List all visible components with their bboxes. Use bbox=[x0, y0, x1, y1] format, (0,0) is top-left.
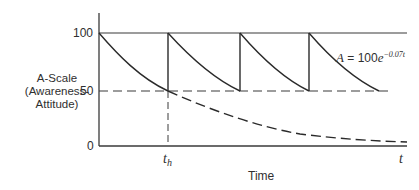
equation-exponent: −0.07t bbox=[383, 50, 405, 59]
equation-variable: A bbox=[336, 50, 344, 65]
half-life-subscript: h bbox=[167, 157, 172, 168]
y-tick-100: 100 bbox=[73, 27, 93, 40]
y-axis-label-line: Attitude) bbox=[18, 98, 96, 111]
half-life-label: th bbox=[163, 152, 172, 169]
x-end-label: t bbox=[399, 152, 403, 165]
equation-annotation: A = 100e−0.07t bbox=[336, 48, 405, 65]
x-axis-label: Time bbox=[248, 170, 274, 183]
y-tick-0: 0 bbox=[87, 140, 94, 153]
y-tick-50: 50 bbox=[80, 85, 93, 98]
decay-series bbox=[168, 91, 407, 142]
equation-text: = 100 bbox=[344, 51, 378, 65]
